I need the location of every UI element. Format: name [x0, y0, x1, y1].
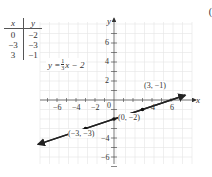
y-tick-label: 4: [105, 57, 109, 66]
point-label: (0, −2): [118, 113, 140, 122]
point-label: (−3, −3): [68, 129, 94, 138]
table-header-x: x: [4, 18, 22, 28]
equation-fraction: 1 3: [61, 58, 64, 71]
x-axis-label: x: [196, 95, 200, 105]
y-tick-label: 6: [105, 38, 109, 47]
x-tick-label: 4: [151, 103, 155, 112]
x-tick-label: −2: [91, 103, 100, 112]
table-cell: 3: [4, 50, 22, 60]
axes: [40, 18, 196, 164]
equation-lhs: y =: [48, 60, 60, 70]
equation-label: y = 1 3 x − 2: [46, 58, 86, 71]
table-cell: −2: [24, 30, 42, 40]
table-cell: −3: [24, 40, 42, 50]
x-tick-label: −4: [72, 103, 81, 112]
x-tick-label: 6: [170, 103, 174, 112]
equation-rhs: x − 2: [65, 60, 84, 70]
y-axis-label: y: [107, 16, 111, 26]
point-label: (3, −1): [144, 81, 166, 90]
y-tick-label: 2: [105, 76, 109, 85]
origin-label: 0: [107, 101, 111, 110]
table-cell: −1: [24, 50, 42, 60]
x-tick-label: −6: [53, 103, 62, 112]
table-cell: 0: [4, 30, 22, 40]
fraction-denominator: 3: [61, 64, 64, 71]
table-cell: −3: [4, 40, 22, 50]
xy-table: x y 0 −2 −3 −3 3 −1: [4, 18, 44, 62]
y-tick-label: −4: [101, 134, 110, 143]
y-tick-label: −6: [101, 153, 110, 162]
table-header-y: y: [24, 18, 42, 28]
